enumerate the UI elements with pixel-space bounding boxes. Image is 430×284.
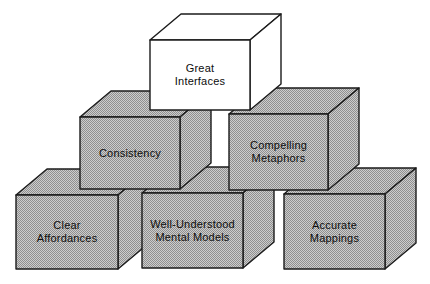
box-compelling-metaphors-label: CompellingMetaphors [250,139,307,164]
pyramid-diagram: ClearAffordancesWell-UnderstoodMental Mo… [0,0,430,284]
box-great-interfaces: GreatInterfaces [150,14,281,110]
box-well-understood-mental-models-label: Well-UnderstoodMental Models [150,218,235,243]
box-accurate-mappings-label: AccurateMappings [310,219,360,244]
diagram-canvas: ClearAffordancesWell-UnderstoodMental Mo… [0,0,430,284]
box-consistency-label: Consistency [99,147,161,159]
